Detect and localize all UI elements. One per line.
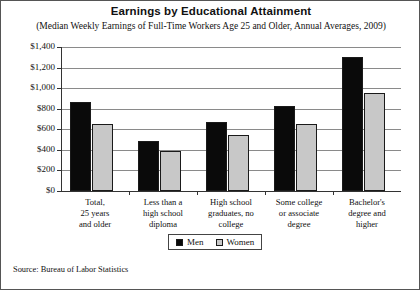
category-labels: Total,25 yearsand olderLess than ahigh s… [61,197,401,239]
y-tick-mark [57,109,61,110]
x-tick-mark [197,191,198,195]
chart-figure: Earnings by Educational Attainment (Medi… [0,0,420,290]
plot-area [61,47,401,191]
x-tick-mark [265,191,266,195]
bar-women [364,93,385,191]
bar-men [342,57,363,191]
y-tick-mark [57,88,61,89]
chart-legend: Men Women [168,234,262,250]
bar-women [92,124,113,191]
category-label: Less than ahigh schooldiploma [129,197,197,230]
legend-item-women: Women [216,237,255,247]
y-tick-label: $800 [1,103,55,113]
y-tick-mark [57,47,61,48]
y-tick-mark [57,129,61,130]
bar-men [70,102,91,191]
y-tick-label: $400 [1,144,55,154]
source-note: Source: Bureau of Labor Statistics [13,265,128,274]
y-tick-label: $0 [1,185,55,195]
x-tick-mark [333,191,334,195]
category-label: High schoolgraduates, nocollege [197,197,265,230]
bar-women [160,151,181,191]
category-label: Bachelor'sdegree andhigher [333,197,401,230]
y-axis-line [61,47,62,191]
y-tick-label: $1,200 [1,62,55,72]
bar-men [274,106,295,191]
legend-swatch-women [216,239,223,246]
bar-men [138,141,159,191]
legend-label-men: Men [187,237,204,247]
x-tick-mark [129,191,130,195]
bar-women [228,135,249,191]
legend-swatch-men [176,239,183,246]
chart-title: Earnings by Educational Attainment [1,5,420,17]
y-tick-label: $1,000 [1,82,55,92]
y-tick-label: $200 [1,164,55,174]
y-tick-mark [57,68,61,69]
category-label: Total,25 yearsand older [61,197,129,230]
x-axis-line [61,191,401,192]
y-tick-mark [57,170,61,171]
legend-item-men: Men [176,237,204,247]
y-tick-mark [57,191,61,192]
y-tick-label: $1,400 [1,41,55,51]
bar-women [296,124,317,191]
legend-label-women: Women [227,237,255,247]
gridline [61,47,401,48]
chart-subtitle: (Median Weekly Earnings of Full-Time Wor… [1,21,420,31]
y-tick-label: $600 [1,123,55,133]
y-tick-mark [57,150,61,151]
bar-men [206,122,227,191]
category-label: Some collegeor associatedegree [265,197,333,230]
